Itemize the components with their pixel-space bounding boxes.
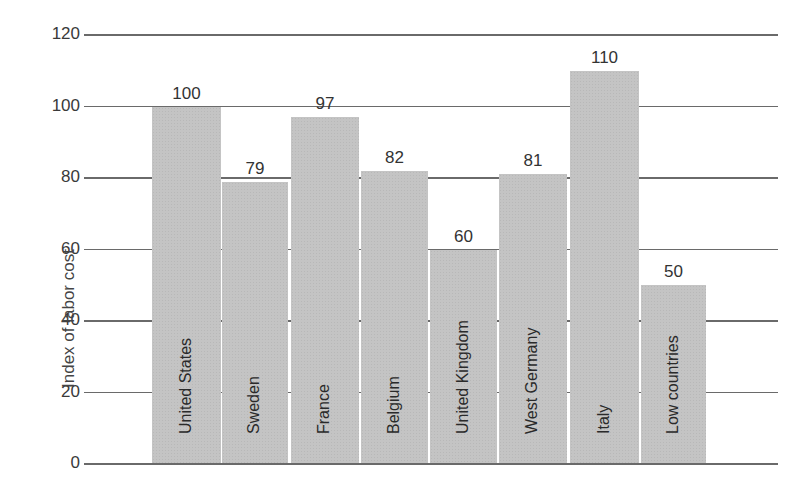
y-tick-label: 80	[30, 167, 80, 187]
bar-value-label: 60	[434, 227, 494, 247]
gridline	[84, 34, 778, 36]
bar-value-label: 97	[295, 94, 355, 114]
category-label: West Germany	[523, 328, 541, 434]
y-tick-label: 0	[30, 453, 80, 473]
bar-value-label: 79	[225, 159, 285, 179]
y-axis-label: Index of labor cost	[59, 249, 79, 388]
bar-value-label: 82	[365, 148, 425, 168]
y-tick-label: 120	[30, 24, 80, 44]
x-axis-baseline	[84, 463, 778, 465]
category-label: Belgium	[385, 376, 403, 434]
y-tick-label: 100	[30, 96, 80, 116]
category-label: United States	[177, 338, 195, 434]
bar-value-label: 110	[575, 48, 635, 68]
bar-value-label: 81	[503, 151, 563, 171]
category-label: Sweden	[245, 376, 263, 434]
category-label: Italy	[595, 405, 613, 434]
bar-value-label: 100	[157, 84, 217, 104]
category-label: Low countries	[664, 335, 682, 434]
category-label: United Kingdom	[454, 320, 472, 434]
bar-value-label: 50	[644, 262, 704, 282]
category-label: France	[315, 384, 333, 434]
